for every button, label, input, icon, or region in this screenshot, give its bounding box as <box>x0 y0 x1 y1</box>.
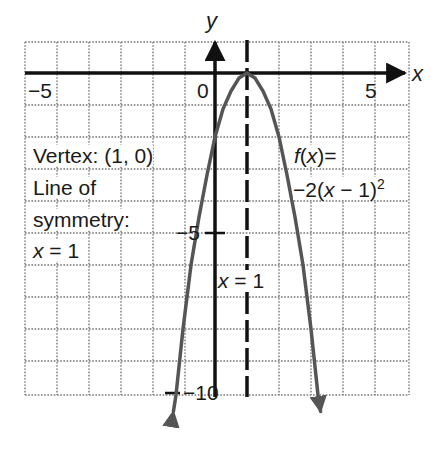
symmetry-annotation-line2: symmetry: <box>33 209 130 230</box>
func-close: )= <box>317 144 336 167</box>
y-tick-label-neg10: −10 <box>183 382 219 403</box>
symmetry-line-label: x = 1 <box>218 270 264 291</box>
symmetry-equation-x: x <box>33 239 44 262</box>
symmetry-equation-rest: = 1 <box>44 239 80 262</box>
func-line2-a: −2( <box>293 178 324 201</box>
symmetry-annotation-line1: Line of <box>33 177 96 198</box>
x-tick-label-neg5: −5 <box>28 80 52 101</box>
func-open: ( <box>300 144 307 167</box>
function-label-line1: f(x)= <box>294 145 337 166</box>
origin-label: 0 <box>197 80 209 101</box>
x-axis-label: x <box>412 63 423 85</box>
func-x: x <box>307 144 318 167</box>
func-exponent: 2 <box>377 176 385 192</box>
x-tick-label-5: 5 <box>365 80 377 101</box>
vertex-annotation: Vertex: (1, 0) <box>33 145 153 166</box>
y-tick-label-neg5: −5 <box>176 222 200 243</box>
y-axis-label: y <box>206 10 217 32</box>
function-label-line2: −2(x − 1)2 <box>293 177 385 200</box>
symmetry-equation: x = 1 <box>33 240 79 261</box>
func-line2-x: x <box>324 178 335 201</box>
func-line2-b: − 1) <box>334 178 377 201</box>
sym-line-rest: = 1 <box>229 269 265 292</box>
sym-line-x: x <box>218 269 229 292</box>
